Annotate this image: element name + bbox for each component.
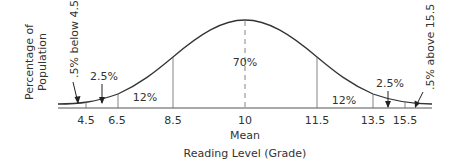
label-right-12: 12% [332, 94, 356, 107]
x-axis-label: Reading Level (Grade) [184, 147, 307, 160]
y-axis-label-line1: Percentage of [23, 23, 36, 100]
tick-11-5: 11.5 [305, 114, 330, 127]
tick-10: 10 [238, 114, 252, 127]
tick-13-5: 13.5 [361, 114, 386, 127]
tick-15-5: 15.5 [393, 114, 418, 127]
reading-level-bell-curve: Percentage of Population .5% below 4.5 2… [0, 0, 457, 166]
arrow-left-2-5-head [99, 97, 105, 104]
label-above-15-5: .5% above 15.5 [424, 4, 437, 90]
label-left-2-5: 2.5% [90, 70, 118, 83]
tick-4-5: 4.5 [77, 114, 95, 127]
label-below-4-5: .5% below 4.5 [68, 0, 81, 78]
label-left-12: 12% [133, 91, 157, 104]
tick-8-5: 8.5 [164, 114, 182, 127]
arrow-right-2-5-head [385, 101, 391, 108]
mean-label: Mean [230, 129, 260, 142]
y-axis-label-line2: Population [36, 33, 49, 91]
label-center-70: 70% [233, 56, 257, 69]
arrow-above-head [415, 101, 421, 109]
tick-6-5: 6.5 [108, 114, 126, 127]
label-right-2-5: 2.5% [376, 77, 404, 90]
